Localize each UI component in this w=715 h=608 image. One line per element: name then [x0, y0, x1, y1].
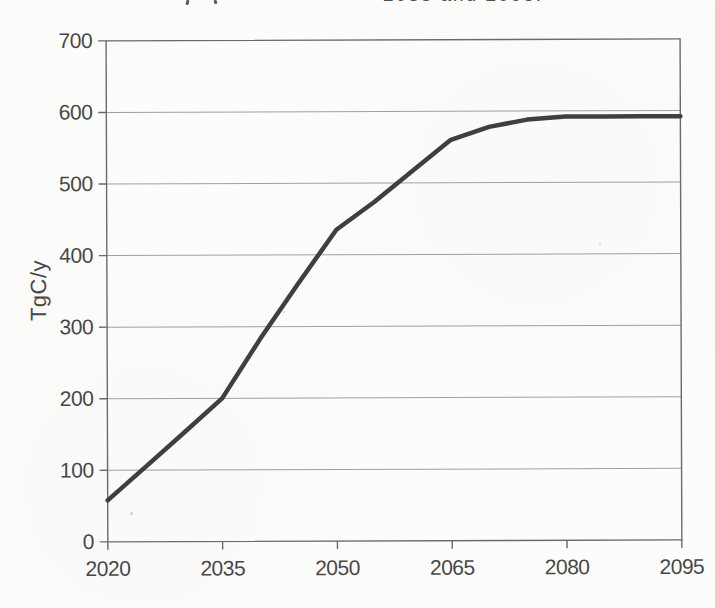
x-tick-label: 2035 — [200, 556, 245, 579]
y-tick-label: 500 — [59, 172, 93, 195]
scan-speckle — [283, 311, 285, 313]
y-tick-label: 100 — [60, 458, 94, 481]
gridline — [108, 468, 682, 470]
y-tick-label: 400 — [59, 244, 93, 267]
x-tick-label: 2020 — [86, 557, 131, 580]
x-tick-label: 2080 — [545, 555, 590, 578]
x-tick-label: 2050 — [315, 556, 360, 579]
gridline — [107, 325, 681, 327]
gridline — [107, 397, 681, 399]
y-tick-label: 600 — [59, 100, 93, 123]
y-axis-label: TgC/y — [26, 260, 51, 321]
line-chart: TgC/y 0100200300400500600700202020352050… — [0, 0, 715, 608]
y-tick-label: 700 — [58, 29, 92, 52]
x-tick-label: 2095 — [660, 555, 705, 578]
gridline — [106, 110, 680, 112]
scanned-chart-page: 2035 and 2095. TgC/y 0100200300400500600… — [0, 0, 715, 608]
y-tick-label: 200 — [60, 387, 94, 410]
y-tick-label: 0 — [83, 530, 94, 553]
scan-speckle — [599, 243, 601, 245]
scan-speckle — [130, 512, 133, 515]
x-tick-label: 2065 — [430, 556, 475, 579]
gridline — [107, 254, 681, 256]
data-series-line — [106, 116, 681, 500]
y-tick-label: 300 — [59, 315, 93, 338]
